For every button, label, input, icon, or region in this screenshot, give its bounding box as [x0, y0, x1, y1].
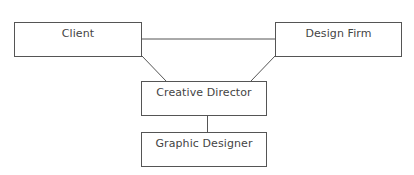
node-label: Design Firm — [305, 27, 371, 40]
node-design-firm: Design Firm — [275, 22, 402, 57]
node-creative-director: Creative Director — [141, 81, 267, 116]
node-label: Graphic Designer — [155, 137, 252, 150]
edge-design-firm-creative-director — [251, 56, 275, 81]
node-client: Client — [14, 22, 142, 57]
node-label: Creative Director — [156, 86, 252, 99]
node-label: Client — [62, 27, 94, 40]
node-graphic-designer: Graphic Designer — [141, 132, 267, 167]
edge-client-creative-director — [142, 56, 166, 81]
